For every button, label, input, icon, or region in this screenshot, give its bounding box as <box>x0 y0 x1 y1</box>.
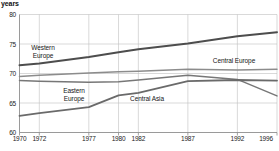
series-label-central-asia: Central Asia <box>123 95 171 103</box>
chart-canvas <box>0 0 279 151</box>
y-axis-tick-label: 75 <box>0 41 16 48</box>
x-axis-tick-label: 1987 <box>174 135 202 142</box>
series-label-central-europe: Central Europe <box>205 57 263 65</box>
x-axis-tick-label: 1982 <box>124 135 152 142</box>
y-axis-tick-label: 70 <box>0 70 16 77</box>
y-axis-tick-label: 65 <box>0 100 16 107</box>
series-label-western-europe: Western Europe <box>24 44 62 59</box>
series-label-eastern-europe: Eastern Europe <box>55 87 93 102</box>
life-expectancy-line-chart: years 8075706560 19701972197719801982198… <box>0 0 279 151</box>
y-axis-tick-label: 80 <box>0 11 16 18</box>
series-line-central-europe <box>20 69 278 76</box>
grid-lines <box>20 15 278 133</box>
x-axis-tick-label: 1992 <box>223 135 251 142</box>
x-axis-tick-label: 1972 <box>25 135 53 142</box>
x-axis-tick-label: 1977 <box>75 135 103 142</box>
x-axis-tick-label: 1996 <box>252 135 279 142</box>
